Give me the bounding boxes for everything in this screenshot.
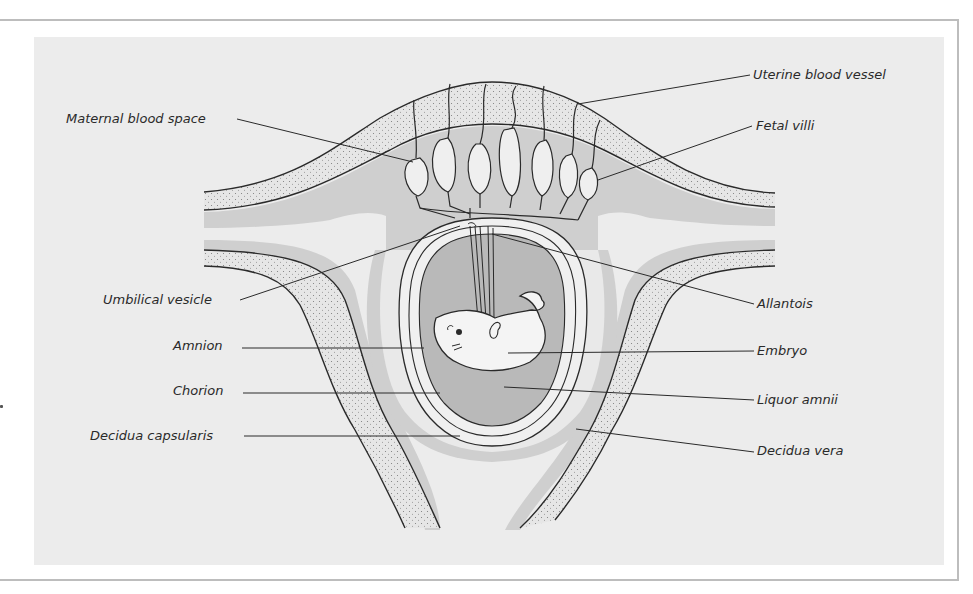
label-uterine-blood-vessel: Uterine blood vessel [753, 67, 886, 83]
label-decidua-capsularis: Decidua capsularis [90, 428, 213, 444]
label-umbilical-vesicle: Umbilical vesicle [103, 292, 212, 308]
label-liquor-amnii: Liquor amnii [757, 392, 838, 408]
label-fetal-villi: Fetal villi [756, 118, 814, 134]
label-embryo: Embryo [757, 343, 807, 359]
label-chorion: Chorion [173, 383, 223, 399]
label-amnion: Amnion [173, 338, 223, 354]
leader-uterine-blood-vessel [578, 75, 750, 104]
label-maternal-blood-space: Maternal blood space [66, 111, 206, 127]
label-decidua-vera: Decidua vera [757, 443, 843, 459]
label-allantois: Allantois [757, 296, 813, 312]
